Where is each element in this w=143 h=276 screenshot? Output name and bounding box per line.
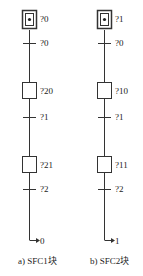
transition-label: ?2 xyxy=(115,184,124,194)
diagram-caption: a) SFC1块 xyxy=(18,256,57,266)
initial-step-label: ?1 xyxy=(115,14,124,24)
step-label: ?11 xyxy=(115,160,128,170)
initial-step-label: ?0 xyxy=(40,14,49,24)
transition-label: ?1 xyxy=(115,112,124,122)
transition-label: ?0 xyxy=(40,38,49,48)
jump-target-label: 0 xyxy=(40,236,45,246)
step-label: ?20 xyxy=(40,86,53,96)
step-label: ?21 xyxy=(40,160,53,170)
transition-label: ?2 xyxy=(40,184,49,194)
transition-label: ?0 xyxy=(115,38,124,48)
step-label: ?10 xyxy=(115,86,128,96)
sfc2-diagram: ?1 ?0 ?10 ?1 ?11 ?2 1 b) SFC2块 xyxy=(72,0,142,276)
sfc1-diagram: ?0 ?0 ?20 ?1 ?21 ?2 0 a) SFC1块 xyxy=(0,0,70,276)
transition-label: ?1 xyxy=(40,112,49,122)
jump-target-label: 1 xyxy=(115,236,120,246)
sfc1-graphic xyxy=(0,0,70,276)
diagram-caption: b) SFC2块 xyxy=(90,256,129,266)
sfc2-graphic xyxy=(72,0,142,276)
